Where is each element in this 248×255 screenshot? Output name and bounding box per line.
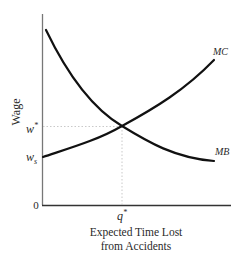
w-s-label: ws (26, 150, 37, 166)
x-axis-label-line2: from Accidents (101, 240, 172, 252)
w-star-label: w* (26, 121, 38, 136)
mb-curve (46, 30, 214, 161)
q-star-label: q* (117, 208, 127, 223)
mb-label: MB (214, 146, 229, 157)
x-axis-label-line1: Expected Time Lost (90, 226, 183, 239)
mc-label: MC (212, 46, 228, 57)
chart-canvas: Wage w* ws 0 q* MC MB Expected Time Lost… (0, 0, 248, 255)
mc-curve (43, 60, 214, 157)
y-axis-label: Wage (9, 98, 23, 125)
origin-label: 0 (33, 199, 39, 211)
